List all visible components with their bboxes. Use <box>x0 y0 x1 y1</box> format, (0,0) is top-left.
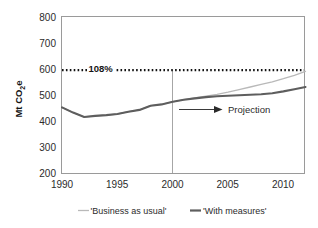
y-tick-700: 700 <box>39 38 56 49</box>
y-tick-200: 200 <box>39 168 56 179</box>
x-tick-1995: 1995 <box>106 179 129 190</box>
legend-label-with-measures: 'With measures' <box>203 206 267 216</box>
y-axis-title-post: e <box>13 80 24 85</box>
x-tick-2000: 2000 <box>161 179 184 190</box>
plot-frame <box>62 17 305 174</box>
x-axis-ticks: 1990 1995 2000 2005 2010 <box>51 179 295 190</box>
y-axis-title-pre: Mt CO <box>13 90 24 118</box>
y-tick-800: 800 <box>39 12 56 23</box>
y-tick-600: 600 <box>39 64 56 75</box>
y-tick-500: 500 <box>39 90 56 101</box>
y-axis-ticks: 800 700 600 500 400 300 200 <box>39 12 56 179</box>
x-tick-2005: 2005 <box>217 179 240 190</box>
legend-label-business-as-usual: 'Business as usual' <box>91 206 167 216</box>
emissions-projection-chart: 800 700 600 500 400 300 200 1990 1995 20… <box>0 0 318 228</box>
y-tick-400: 400 <box>39 116 56 127</box>
y-tick-300: 300 <box>39 142 56 153</box>
chart-legend: 'Business as usual' 'With measures' <box>78 206 267 216</box>
projection-annotation: Projection <box>179 104 270 115</box>
chart-svg: 800 700 600 500 400 300 200 1990 1995 20… <box>0 0 318 228</box>
reference-label-108: 108% <box>89 63 114 74</box>
projection-label: Projection <box>228 104 270 115</box>
svg-text:Mt CO2e: Mt CO2e <box>13 80 26 117</box>
y-axis-title: Mt CO2e <box>13 80 26 117</box>
projection-arrow-head-icon <box>214 106 223 113</box>
x-tick-1990: 1990 <box>51 179 74 190</box>
x-tick-2010: 2010 <box>272 179 295 190</box>
